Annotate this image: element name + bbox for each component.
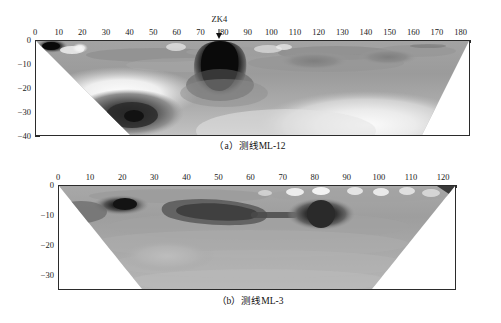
panel-b-caption: （b）测线ML-3 (217, 296, 284, 307)
y-axis-major-tick (35, 136, 40, 137)
borehole-label: ZK4 (212, 15, 228, 24)
x-axis-tick-label: 70 (278, 173, 287, 182)
x-axis-tick-label: 60 (246, 173, 255, 182)
x-axis-tick-label: 80 (311, 173, 320, 182)
x-axis-tick-label: 110 (405, 173, 417, 182)
x-axis-tick-label: 100 (373, 173, 386, 182)
panel-a-plot-frame (35, 40, 470, 136)
x-axis-minor-tick (456, 185, 457, 188)
x-axis-tick-label: 30 (150, 173, 159, 182)
x-axis-tick-label: 20 (118, 173, 127, 182)
x-axis-tick-label: 10 (86, 173, 95, 182)
panel-a-caption: （a）测线ML-12 (214, 141, 285, 152)
y-axis-tick-label: −30 (28, 271, 54, 280)
panel-b: 0102030405060708090100110120 0−10−20−30 (0, 160, 501, 323)
x-axis-tick-label: 120 (437, 173, 450, 182)
x-axis-tick-label: 50 (214, 173, 223, 182)
borehole-arrow-icon (216, 33, 222, 39)
y-axis-tick-label: −40 (5, 132, 31, 141)
figure-container: 0102030405060708090100110120130140150160… (0, 0, 501, 323)
y-axis-tick-label: −10 (5, 60, 31, 69)
y-axis-tick-label: −30 (5, 108, 31, 117)
y-axis-tick-label: −20 (28, 241, 54, 250)
x-axis-tick-label: 90 (343, 173, 352, 182)
x-axis-tick-label: 0 (56, 173, 60, 182)
y-axis-tick-label: −20 (5, 84, 31, 93)
panel-b-tomogram (59, 186, 455, 289)
panel-a-tomogram (36, 41, 469, 135)
panel-b-plot-frame (58, 185, 456, 290)
panel-a: 0102030405060708090100110120130140150160… (0, 0, 501, 160)
y-axis-tick-label: 0 (28, 181, 54, 190)
y-axis-tick-label: −10 (28, 211, 54, 220)
x-axis-tick-label: 40 (182, 173, 191, 182)
borehole-marker-zk4: ZK4 (0, 0, 501, 45)
